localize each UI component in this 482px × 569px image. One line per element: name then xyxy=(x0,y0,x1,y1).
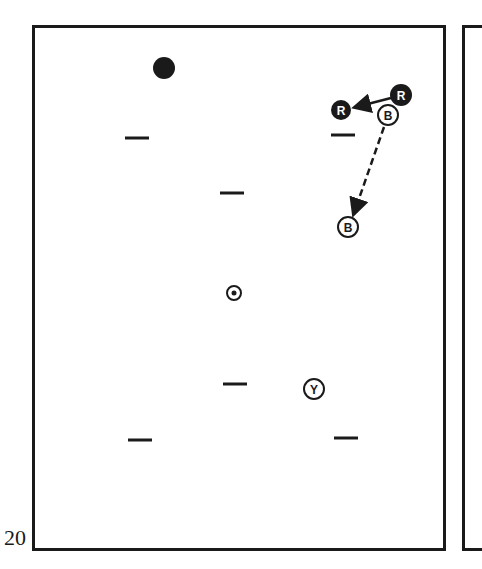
blue-ball-end: B xyxy=(338,217,358,237)
red-ball-end: R xyxy=(331,100,351,120)
yellow-ball: Y xyxy=(304,379,324,399)
ball-label: B xyxy=(384,109,393,123)
blue-ball-start: B xyxy=(378,105,398,125)
blue-ball-path xyxy=(354,127,384,213)
ball-label: R xyxy=(397,89,406,103)
ball-label: B xyxy=(344,221,353,235)
red-ball-start: R xyxy=(390,84,412,106)
black-ball xyxy=(153,57,175,79)
center-spot-marker xyxy=(227,286,241,300)
ball-label: Y xyxy=(310,383,318,397)
ball-label: R xyxy=(337,104,346,118)
